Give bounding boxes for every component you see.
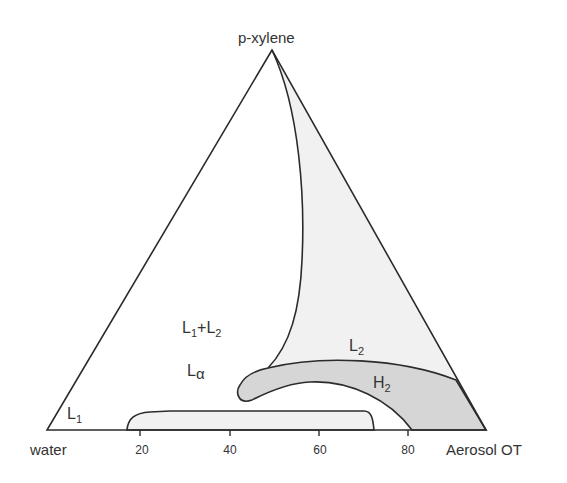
vertex-label-p-xylene: p-xylene bbox=[238, 30, 295, 45]
phase-label-lalpha: Lα bbox=[187, 363, 205, 381]
phase-l1l2-sub2: 2 bbox=[215, 327, 221, 339]
vertex-label-water: water bbox=[30, 442, 67, 457]
phase-l1-sub: 1 bbox=[76, 413, 82, 425]
phase-la-base: L bbox=[187, 362, 196, 379]
phase-l2-base: L bbox=[349, 337, 358, 354]
tick-label-80: 80 bbox=[401, 444, 414, 456]
phase-l2-sub: 2 bbox=[358, 345, 364, 357]
phase-h2-base: H bbox=[373, 374, 385, 391]
tick-label-20: 20 bbox=[135, 444, 148, 456]
phase-label-h2: H2 bbox=[373, 375, 391, 394]
phase-l1l2-plus: + bbox=[197, 319, 206, 336]
phase-label-l1-l2: L1+L2 bbox=[182, 320, 221, 339]
tick-label-60: 60 bbox=[313, 444, 326, 456]
tick-label-40: 40 bbox=[223, 444, 236, 456]
phase-label-l1: L1 bbox=[67, 406, 82, 425]
lalpha-region bbox=[127, 411, 374, 430]
l2-region bbox=[268, 50, 456, 380]
phase-l1-base: L bbox=[67, 405, 76, 422]
phase-label-l2: L2 bbox=[349, 338, 364, 357]
phase-l1l2-base1: L bbox=[182, 319, 191, 336]
phase-l1l2-base2: L bbox=[206, 319, 215, 336]
vertex-label-aerosol-ot: Aerosol OT bbox=[446, 442, 522, 457]
ternary-diagram bbox=[0, 0, 567, 483]
phase-la-greek: α bbox=[196, 365, 205, 382]
phase-h2-sub: 2 bbox=[385, 382, 391, 394]
